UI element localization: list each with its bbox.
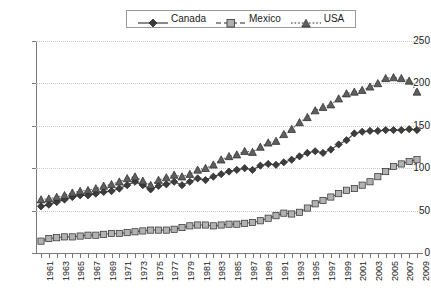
x-tick-label: 2009 (421, 261, 431, 281)
mexico-legend-marker-icon (216, 14, 246, 24)
x-tick-mark (331, 254, 332, 258)
data-point-marker (374, 127, 381, 134)
x-tick-label: 1963 (61, 261, 71, 281)
data-point-marker (327, 146, 334, 153)
data-point-marker (320, 197, 326, 203)
data-point-marker (257, 162, 264, 169)
data-point-marker (382, 126, 389, 133)
data-point-marker (218, 222, 224, 228)
canada-legend-marker-icon (138, 14, 168, 24)
x-tick-label: 1989 (264, 261, 274, 281)
x-tick-mark (198, 254, 199, 258)
x-tick-mark (72, 254, 73, 258)
data-point-marker (139, 177, 147, 184)
data-point-marker (171, 226, 177, 232)
data-point-marker (202, 222, 208, 228)
data-point-marker (69, 234, 75, 240)
data-point-marker (273, 213, 279, 219)
x-tick-label: 2003 (374, 261, 384, 281)
data-point-marker (383, 168, 389, 174)
x-tick-mark (119, 254, 120, 258)
x-tick-mark (417, 254, 418, 258)
x-tick-mark (268, 254, 269, 258)
data-point-marker (281, 210, 287, 216)
x-tick-label: 1991 (280, 261, 290, 281)
x-tick-label: 1999 (343, 261, 353, 281)
data-point-marker (413, 88, 421, 95)
x-tick-label: 1973 (139, 261, 149, 281)
data-point-marker (335, 95, 343, 102)
data-point-marker (186, 178, 193, 185)
data-point-marker (272, 161, 279, 168)
data-point-marker (390, 126, 397, 133)
data-point-marker (68, 189, 76, 196)
x-tick-mark (182, 254, 183, 258)
x-tick-mark (221, 254, 222, 258)
data-point-marker (366, 127, 373, 134)
data-point-marker (242, 220, 248, 226)
data-point-marker (179, 224, 185, 230)
plot-area (36, 41, 422, 253)
data-point-marker (124, 182, 131, 189)
x-tick-mark (112, 254, 113, 258)
x-tick-mark (80, 254, 81, 258)
x-tick-mark (386, 254, 387, 258)
data-point-marker (280, 159, 287, 166)
x-tick-mark (190, 254, 191, 258)
data-point-marker (359, 128, 366, 135)
x-tick-label: 2001 (358, 261, 368, 281)
legend-entry-canada: Canada (138, 14, 206, 24)
data-point-marker (311, 107, 319, 114)
data-point-marker (202, 164, 210, 171)
legend-entry-usa: USA (291, 14, 345, 24)
x-tick-mark (260, 254, 261, 258)
data-point-marker (249, 219, 255, 225)
x-tick-label: 1979 (186, 261, 196, 281)
x-tick-mark (292, 254, 293, 258)
x-tick-label: 2005 (390, 261, 400, 281)
data-point-marker (202, 176, 209, 183)
data-point-marker (312, 148, 319, 155)
data-point-marker (374, 80, 382, 87)
data-point-marker (233, 166, 240, 173)
chart-legend: Canada Mexico USA (126, 10, 356, 28)
data-point-marker (336, 191, 342, 197)
x-tick-label: 1985 (233, 261, 243, 281)
x-tick-mark (206, 254, 207, 258)
data-point-marker (46, 235, 52, 241)
x-tick-label: 1971 (123, 261, 133, 281)
data-point-marker (163, 181, 170, 188)
legend-label-mexico: Mexico (249, 14, 281, 24)
data-point-marker (76, 187, 84, 194)
data-point-marker (226, 221, 232, 227)
data-point-marker (335, 141, 342, 148)
data-point-marker (367, 179, 373, 185)
data-point-marker (304, 205, 310, 211)
data-point-marker (155, 227, 161, 233)
data-point-marker (413, 126, 420, 133)
data-point-marker (312, 201, 318, 207)
data-point-marker (37, 196, 45, 203)
data-point-marker (218, 171, 225, 178)
x-tick-label: 1975 (155, 261, 165, 281)
data-point-marker (233, 151, 241, 158)
x-tick-mark (49, 254, 50, 258)
x-tick-mark (96, 254, 97, 258)
data-point-marker (390, 163, 396, 169)
data-point-marker (195, 222, 201, 228)
x-tick-mark (166, 254, 167, 258)
data-point-marker (351, 185, 357, 191)
data-point-marker (257, 218, 263, 224)
x-tick-mark (237, 254, 238, 258)
data-point-marker (328, 194, 334, 200)
data-point-marker (350, 88, 358, 95)
x-tick-mark (370, 254, 371, 258)
x-tick-mark (159, 254, 160, 258)
data-point-marker (171, 178, 178, 185)
x-tick-mark (57, 254, 58, 258)
usa-legend-marker-icon (291, 14, 321, 24)
data-point-marker (210, 173, 217, 180)
data-point-marker (249, 148, 257, 155)
data-point-marker (303, 113, 311, 120)
